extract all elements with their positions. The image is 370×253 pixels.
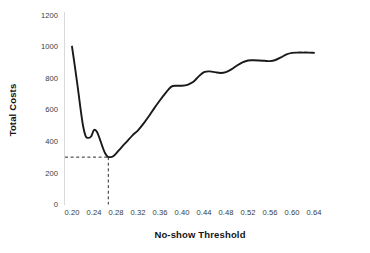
x-tick-label-group: 0.200.240.280.320.360.400.440.480.520.56…	[65, 208, 322, 217]
y-tick-label: 800	[45, 74, 58, 83]
y-tick-label: 600	[45, 105, 58, 114]
x-tick-label: 0.32	[131, 208, 146, 217]
y-tick-label: 200	[45, 169, 58, 178]
x-tick-label: 0.40	[175, 208, 190, 217]
x-tick-label: 0.48	[219, 208, 234, 217]
x-tick-label: 0.36	[153, 208, 168, 217]
x-tick-label: 0.24	[87, 208, 102, 217]
x-axis-title: No-show Threshold	[154, 229, 245, 240]
chart-container: 020040060080010001200 0.200.240.280.320.…	[0, 0, 370, 253]
x-tick-label: 0.56	[263, 208, 278, 217]
x-tick-label: 0.52	[241, 208, 256, 217]
x-tick-label: 0.64	[307, 208, 322, 217]
x-tick-label: 0.44	[197, 208, 212, 217]
series-line-total-costs	[72, 47, 314, 158]
y-tick-label: 400	[45, 137, 58, 146]
x-tick-label: 0.20	[65, 208, 80, 217]
y-tick-label: 0	[54, 200, 58, 209]
y-tick-label-group: 020040060080010001200	[41, 11, 58, 210]
y-axis-title: Total Costs	[7, 84, 18, 137]
x-tick-label: 0.28	[109, 208, 124, 217]
x-tick-label: 0.60	[285, 208, 300, 217]
line-chart: 020040060080010001200 0.200.240.280.320.…	[0, 0, 370, 253]
y-tick-label: 1200	[41, 11, 58, 20]
y-tick-label: 1000	[41, 42, 58, 51]
